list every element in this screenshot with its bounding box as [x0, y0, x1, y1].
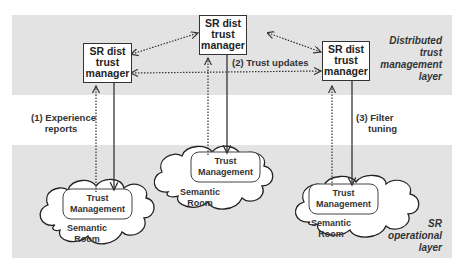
layer-label-line: management — [380, 59, 442, 71]
layer-label-line: layer — [388, 242, 442, 254]
flow-label-trust-updates: (2) Trust updates — [232, 57, 309, 68]
flow-label-filter-tuning: (3) Filter tuning — [356, 112, 397, 134]
tm-label-line: Management — [309, 199, 378, 210]
room-label-line: Room — [306, 229, 356, 240]
tm-label-line: Trust — [191, 156, 260, 167]
manager-label-line: manager — [84, 68, 131, 79]
semantic-room-center: Semantic Room — [175, 187, 225, 209]
sr-dist-trust-manager-left: SR dist trust manager — [83, 43, 132, 83]
flow-label-line: (1) Experience — [26, 112, 96, 123]
room-label-line: Room — [175, 198, 225, 209]
layer-label-distributed: Distributed trust management layer — [380, 35, 442, 83]
sr-dist-trust-manager-center: SR dist trust manager — [199, 15, 247, 55]
manager-label-line: manager — [200, 40, 246, 51]
tm-label-line: Trust — [63, 193, 132, 204]
trust-management-right: Trust Management — [309, 188, 378, 210]
tm-label-line: Management — [63, 204, 132, 215]
layer-label-line: operational — [388, 230, 442, 242]
layer-label-operational: SR operational layer — [388, 218, 442, 254]
room-label-line: Semantic — [306, 218, 356, 229]
semantic-room-left: Semantic Room — [62, 223, 112, 245]
semantic-room-right: Semantic Room — [306, 218, 356, 240]
layer-label-line: SR — [388, 218, 442, 230]
flow-label-line: (3) Filter — [356, 112, 397, 123]
flow-label-line: (2) Trust updates — [232, 57, 309, 68]
tm-label-line: Management — [191, 167, 260, 178]
layer-label-line: layer — [380, 71, 442, 83]
tm-label-line: Trust — [309, 188, 378, 199]
trust-management-center: Trust Management — [191, 156, 260, 178]
trust-management-left: Trust Management — [63, 193, 132, 215]
layer-label-line: Distributed — [380, 35, 442, 47]
manager-label-line: manager — [323, 66, 369, 77]
flow-label-experience-reports: (1) Experience reports — [26, 112, 96, 134]
sr-dist-trust-manager-right: SR dist trust manager — [322, 41, 370, 81]
room-label-line: Semantic — [62, 223, 112, 234]
flow-label-line: tuning — [356, 123, 397, 134]
room-label-line: Room — [62, 234, 112, 245]
room-label-line: Semantic — [175, 187, 225, 198]
layer-label-line: trust — [380, 47, 442, 59]
flow-label-line: reports — [26, 123, 96, 134]
